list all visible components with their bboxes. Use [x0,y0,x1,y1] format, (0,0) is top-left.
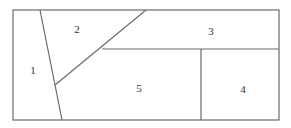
region-label-2: 2 [74,24,80,35]
region-label-1: 1 [30,65,36,76]
outer-border [13,10,279,120]
region-label-5: 5 [136,83,142,94]
region-label-3: 3 [208,26,214,37]
region-label-4: 4 [240,84,246,95]
region-diagram: 1 2 3 4 5 [0,0,291,128]
diagram-lines [0,0,291,128]
diagonal-divider [55,10,146,85]
slanted-divider [40,10,62,120]
